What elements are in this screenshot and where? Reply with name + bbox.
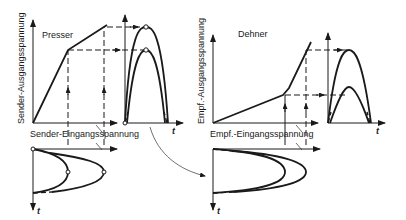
small-output-curve [127, 50, 165, 123]
origin-marker [31, 147, 35, 151]
receiver-input-label: Empf.-Eingangsspannung [210, 129, 314, 139]
sender-input-label: Sender-Eingangsspannung [30, 129, 139, 139]
peak-marker [102, 170, 106, 174]
peak-marker [144, 48, 148, 52]
time-label: t [376, 126, 380, 136]
dash-segment [33, 192, 52, 193]
origin-marker [123, 121, 127, 125]
peak-marker [66, 170, 70, 174]
compander-diagram: Presser Sender-Ausgangsspannung Sender-E… [0, 0, 406, 220]
dehner-title: Dehner [238, 29, 268, 39]
sender-output-label: Sender-Ausgangsspannung [16, 12, 26, 124]
transmission-arrow [150, 127, 205, 176]
dehner-transfer-graph: Dehner Empf.-Ausgangsspannung Empf.-Eing… [196, 18, 348, 145]
large-output-curve [125, 27, 168, 123]
dehner-output-waveform: t [328, 33, 385, 136]
presser-input-waveform: t [31, 143, 117, 216]
presser-output-waveform: t [123, 15, 183, 136]
time-label: t [172, 126, 176, 136]
expander-curve [213, 42, 311, 123]
peak-marker [144, 25, 148, 29]
dash-segment [213, 192, 234, 193]
presser-title: Presser [42, 30, 73, 40]
time-label: t [37, 206, 41, 216]
dehner-input-waveform: t [213, 143, 320, 216]
time-label: t [217, 206, 221, 216]
small-output-curve [330, 87, 369, 123]
receiver-output-label: Empf.-Ausgangsspannung [196, 18, 206, 124]
